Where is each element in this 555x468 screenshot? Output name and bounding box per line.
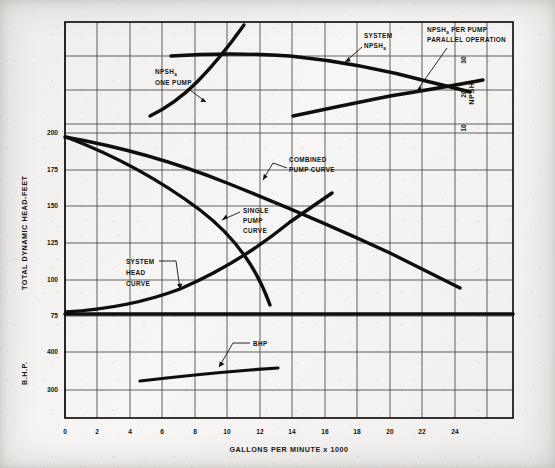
label-bhp: BHP (253, 340, 268, 347)
ytick-400: 400 (47, 348, 58, 355)
label-single-line2: PUMP (243, 217, 263, 224)
xaxis-title: GALLONS PER MINUTE x 1000 (229, 445, 348, 454)
annotation-system-npsha: SYSTEM NPSHa (345, 32, 392, 62)
plot-frame (65, 22, 513, 418)
label-single-line1: SINGLE (243, 207, 269, 214)
xtick-16: 16 (321, 428, 329, 435)
label-combined-line2: PUMP CURVE (289, 166, 335, 173)
label-syshead-line2: HEAD (126, 269, 146, 276)
xtick-12: 12 (256, 428, 264, 435)
axis-left-ticks: 200 175 150 125 100 75 400 300 (47, 129, 58, 393)
arrowhead-combined-pump-curve (263, 174, 268, 180)
xtick-20: 20 (386, 428, 394, 435)
xtick-0: 0 (63, 428, 67, 435)
xtick-18: 18 (353, 428, 361, 435)
annotation-bhp: BHP (219, 340, 268, 367)
ytick-100: 100 (47, 276, 58, 283)
xtick-8: 8 (193, 428, 197, 435)
label-npsha-one-pump-line1: NPSHa (155, 68, 177, 77)
ytick-125: 125 (47, 239, 58, 246)
label-syshead-line1: SYSTEM (126, 258, 154, 265)
xtick-6: 6 (160, 428, 164, 435)
ytick-150: 150 (47, 202, 58, 209)
label-parallel-line1: NPSHa PER PUMP (427, 26, 488, 35)
axis-right-ticks: 30 20 10 NPSHa (460, 56, 477, 132)
axis-bottom-ticks: 0 2 4 6 8 10 12 14 16 18 20 22 24 (63, 428, 459, 435)
npsh-tick-20: 20 (460, 90, 467, 98)
figure-root: 200 175 150 125 100 75 400 300 TOTAL DYN… (0, 0, 555, 468)
yaxis-title-lower: B.H.P. (20, 361, 29, 385)
leader-bhp (219, 343, 250, 367)
yaxis-title-right: NPSHa (467, 79, 477, 104)
pump-curve-chart: 200 175 150 125 100 75 400 300 TOTAL DYN… (0, 0, 555, 468)
npsh-tick-10: 10 (460, 124, 467, 132)
label-parallel-line2: PARALLEL OPERATION (427, 36, 506, 43)
annotation-single-pump-curve: SINGLE PUMP CURVE (222, 207, 269, 234)
xtick-2: 2 (95, 428, 99, 435)
npsh-tick-30: 30 (460, 56, 467, 64)
ytick-200: 200 (47, 129, 58, 136)
annotation-system-head-curve: SYSTEM HEAD CURVE (126, 258, 183, 289)
label-npsha-one-pump-line2: ONE PUMP (155, 79, 192, 86)
label-system-npsha-line1: SYSTEM (364, 32, 392, 39)
label-system-npsha-line2: NPSHa (364, 42, 386, 51)
xtick-10: 10 (223, 428, 231, 435)
curve-bhp (140, 368, 278, 381)
annotation-combined-pump-curve: COMBINED PUMP CURVE (263, 156, 335, 180)
grid-lines (65, 22, 513, 418)
xtick-22: 22 (418, 428, 426, 435)
yaxis-title-upper: TOTAL DYNAMIC HEAD-FEET (20, 175, 29, 290)
ytick-175: 175 (47, 166, 58, 173)
label-syshead-line3: CURVE (126, 280, 150, 287)
ytick-300: 300 (47, 386, 58, 393)
xtick-4: 4 (128, 428, 132, 435)
ytick-75: 75 (51, 312, 59, 319)
label-combined-line1: COMBINED (289, 156, 327, 163)
xtick-24: 24 (451, 428, 459, 435)
label-single-line3: CURVE (243, 227, 267, 234)
leader-combined-pump-curve (263, 163, 287, 180)
curve-npsha-parallel (293, 80, 483, 116)
xtick-14: 14 (288, 428, 296, 435)
